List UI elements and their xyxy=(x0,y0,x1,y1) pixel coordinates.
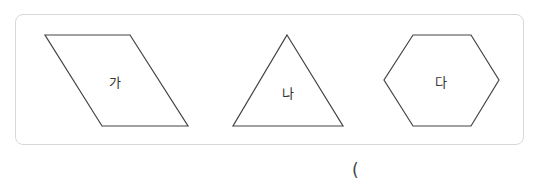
shapes-figure xyxy=(0,0,556,193)
shape-label-da: 다 xyxy=(435,72,447,91)
triangle-shape xyxy=(233,35,343,126)
shape-label-na: 나 xyxy=(282,83,294,102)
shape-label-ga: 가 xyxy=(109,72,121,91)
answer-paren: ( xyxy=(352,160,359,180)
